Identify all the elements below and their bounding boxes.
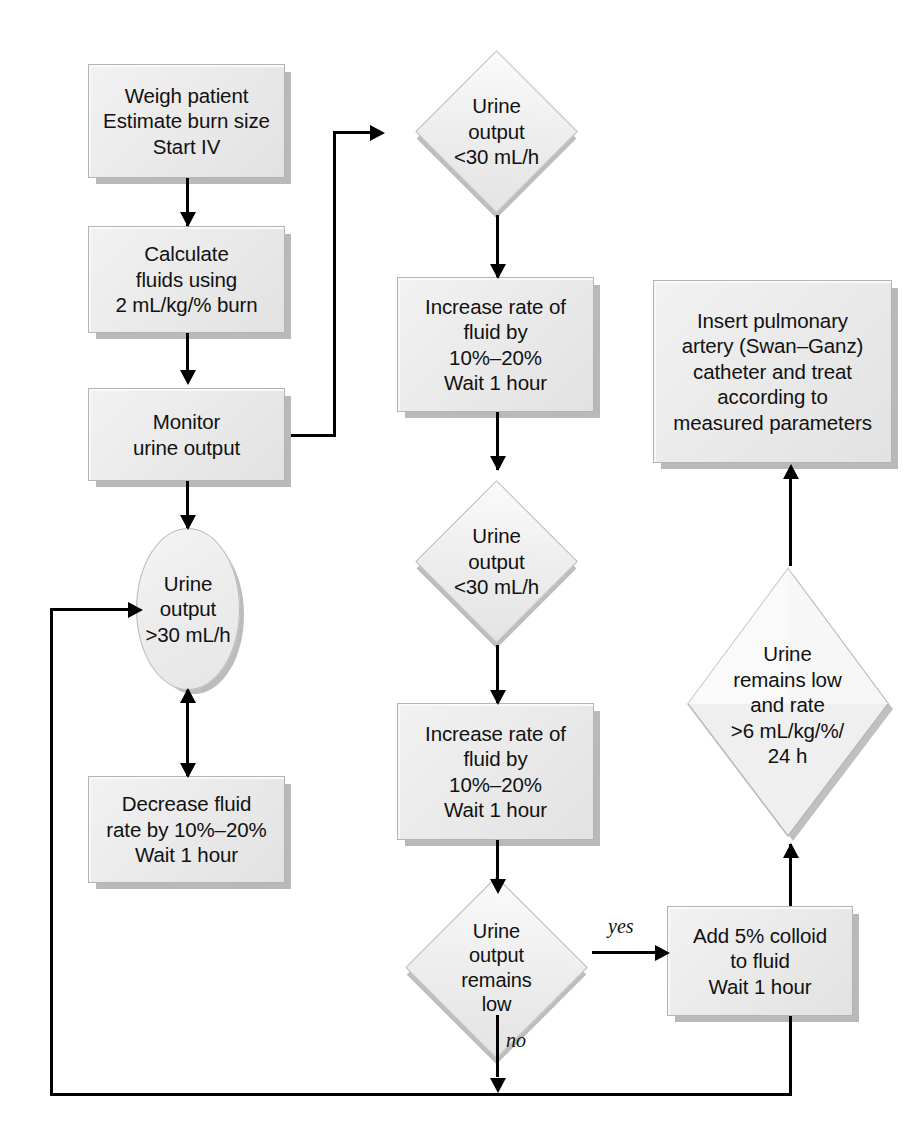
node-weigh-patient[interactable]: Weigh patient Estimate burn size Start I… — [88, 64, 285, 178]
arrowhead-decision3 — [490, 879, 506, 894]
node-urine-output-high-label: Urine output >30 mL/h — [145, 571, 230, 648]
node-monitor-urine-output[interactable]: Monitor urine output — [88, 388, 285, 481]
node-increase-rate-2-label: Increase rate of fluid by 10%–20% Wait 1… — [425, 721, 566, 823]
connector-left-to-urine-high — [50, 608, 138, 611]
flowchart-canvas: yes no Weigh patient Estimate burn size … — [0, 0, 922, 1145]
arrowhead-no-to-rail — [490, 1078, 506, 1093]
arrowhead-monitor — [180, 370, 196, 385]
node-monitor-urine-output-label: Monitor urine output — [133, 409, 240, 460]
node-decision-urine-low-1-label: Urine output <30 mL/h — [454, 93, 539, 170]
connector-colloid-down-to-rail — [789, 1016, 792, 1096]
node-decision-urine-low-2-label: Urine output <30 mL/h — [454, 523, 539, 600]
node-insert-swan-ganz-label: Insert pulmonary artery (Swan–Ganz) cath… — [673, 308, 872, 436]
node-decision-urine-low-1[interactable]: Urine output <30 mL/h — [415, 50, 578, 213]
node-decision-urine-low-2[interactable]: Urine output <30 mL/h — [415, 480, 578, 643]
connector-left-riser — [50, 608, 53, 1096]
node-calculate-fluids-label: Calculate fluids using 2 mL/kg/% burn — [115, 241, 257, 318]
connector-monitor-right-segment — [291, 434, 336, 437]
arrowhead-decrease-down — [180, 763, 196, 778]
node-decision-urine-remains-low-rate[interactable]: Urine remains low and rate >6 mL/kg/%/ 2… — [681, 566, 895, 846]
arrowhead-increase2 — [490, 690, 506, 705]
edge-label-no: no — [506, 1029, 526, 1052]
node-urine-output-high[interactable]: Urine output >30 mL/h — [136, 528, 240, 690]
arrowhead-calculate — [180, 212, 196, 227]
arrowhead-decision2 — [490, 456, 506, 471]
node-calculate-fluids[interactable]: Calculate fluids using 2 mL/kg/% burn — [88, 226, 285, 333]
edge-label-yes: yes — [608, 915, 634, 938]
node-insert-swan-ganz[interactable]: Insert pulmonary artery (Swan–Ganz) cath… — [653, 280, 892, 463]
arrowhead-urine-high — [180, 515, 196, 530]
node-increase-rate-1-label: Increase rate of fluid by 10%–20% Wait 1… — [425, 294, 566, 396]
connector-decision3-yes — [592, 951, 664, 954]
node-add-colloid[interactable]: Add 5% colloid to fluid Wait 1 hour — [667, 906, 853, 1016]
arrowhead-back-to-urine-high — [128, 602, 143, 618]
connector-decision4-to-swanganz — [789, 468, 792, 566]
connector-monitor-up-segment — [333, 131, 336, 436]
arrowhead-colloid — [655, 945, 670, 961]
node-decision-urine-remains-low-label: Urine output remains low — [461, 919, 531, 1017]
node-decrease-fluid-rate[interactable]: Decrease fluid rate by 10%–20% Wait 1 ho… — [88, 776, 285, 883]
connector-bottom-rail — [50, 1093, 792, 1096]
node-increase-rate-2[interactable]: Increase rate of fluid by 10%–20% Wait 1… — [397, 703, 594, 840]
arrowhead-swanganz — [783, 464, 799, 479]
node-decision-urine-remains-low-rate-label: Urine remains low and rate >6 mL/kg/%/ 2… — [731, 641, 844, 769]
node-weigh-patient-label: Weigh patient Estimate burn size Start I… — [103, 83, 270, 160]
arrowhead-increase1 — [490, 264, 506, 279]
node-decrease-fluid-rate-label: Decrease fluid rate by 10%–20% Wait 1 ho… — [106, 791, 266, 868]
arrowhead-decision4 — [783, 843, 799, 858]
arrowhead-decision1 — [370, 125, 385, 141]
node-increase-rate-1[interactable]: Increase rate of fluid by 10%–20% Wait 1… — [397, 277, 594, 412]
connector-decision3-no — [496, 1015, 499, 1077]
node-add-colloid-label: Add 5% colloid to fluid Wait 1 hour — [693, 923, 827, 1000]
arrowhead-urine-high-up — [180, 688, 196, 703]
